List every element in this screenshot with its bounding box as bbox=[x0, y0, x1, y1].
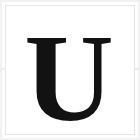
letter-tile: U bbox=[0, 0, 140, 140]
letter-u-glyph-svg: U bbox=[0, 0, 140, 140]
letter-u-glyph: U bbox=[24, 10, 114, 140]
glyph-container: U bbox=[0, 0, 140, 140]
